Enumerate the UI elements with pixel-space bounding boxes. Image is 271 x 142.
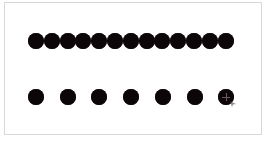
top-row-dot xyxy=(107,33,123,49)
canvas-frame xyxy=(4,2,262,135)
top-row-dot xyxy=(170,33,186,49)
bottom-row-dot xyxy=(28,89,44,105)
top-row xyxy=(0,33,271,51)
top-row-dot xyxy=(139,33,155,49)
top-row-dot xyxy=(186,33,202,49)
top-row-dot xyxy=(44,33,60,49)
top-row-dot xyxy=(202,33,218,49)
top-row-dot xyxy=(91,33,107,49)
pointer-arrow-icon xyxy=(230,101,236,107)
top-row-dot xyxy=(218,33,234,49)
bottom-row-dot xyxy=(60,89,76,105)
top-row-dot xyxy=(154,33,170,49)
crosshair-cursor-icon xyxy=(222,93,230,101)
top-row-dot xyxy=(28,33,44,49)
bottom-row-dot xyxy=(123,89,139,105)
top-row-dot xyxy=(60,33,76,49)
bottom-row-dot xyxy=(155,89,171,105)
bottom-row-dot xyxy=(91,89,107,105)
bottom-row-dot xyxy=(187,89,203,105)
top-row-dot xyxy=(75,33,91,49)
top-row-dot xyxy=(123,33,139,49)
